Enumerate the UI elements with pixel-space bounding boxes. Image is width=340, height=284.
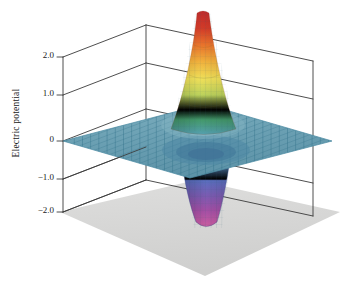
z-tick-label-neg-1.0: −1.0 (14, 172, 54, 182)
z-tick-label-1.0: 1.0 (18, 88, 54, 98)
z-axis-title: Electric potential (11, 63, 21, 183)
figure-3d-surface-plot: Electric potential 2.0 1.0 0 −1.0 −2.0 (0, 0, 340, 284)
z-tick-label-2.0: 2.0 (18, 50, 54, 60)
z-tick-label-0: 0 (18, 134, 54, 144)
z-tick-label-neg-2.0: −2.0 (14, 205, 54, 215)
z-axis-ticks (57, 57, 63, 212)
